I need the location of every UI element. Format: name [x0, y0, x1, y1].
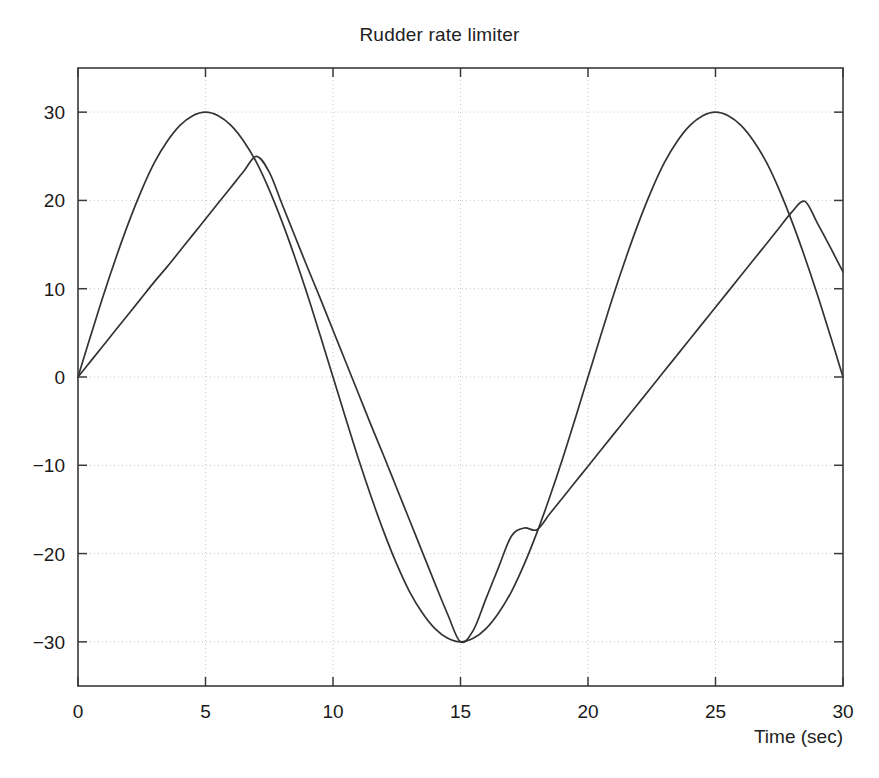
gridlines-group [78, 68, 843, 686]
x-tick-label: 10 [322, 701, 343, 722]
x-tick-label: 5 [200, 701, 211, 722]
x-tick-label: 20 [577, 701, 598, 722]
x-tick-label: 30 [832, 701, 853, 722]
y-tick-label: −30 [33, 632, 65, 653]
x-tick-label: 25 [705, 701, 726, 722]
series-group [78, 112, 843, 642]
tick-labels-group: 051015202530−30−20−100102030 [33, 102, 854, 722]
y-tick-label: 20 [44, 190, 65, 211]
y-tick-label: 30 [44, 102, 65, 123]
y-tick-label: −20 [33, 544, 65, 565]
y-tick-label: −10 [33, 455, 65, 476]
x-tick-label: 0 [73, 701, 84, 722]
figure-canvas: Rudder rate limiter 051015202530−30−20−1… [0, 0, 879, 778]
plot-area: 051015202530−30−20−100102030 [0, 0, 879, 778]
x-axis-label: Time (sec) [600, 726, 843, 748]
x-tick-label: 15 [450, 701, 471, 722]
y-tick-label: 0 [54, 367, 65, 388]
series-line-rate-limited [78, 156, 843, 642]
y-tick-label: 10 [44, 279, 65, 300]
